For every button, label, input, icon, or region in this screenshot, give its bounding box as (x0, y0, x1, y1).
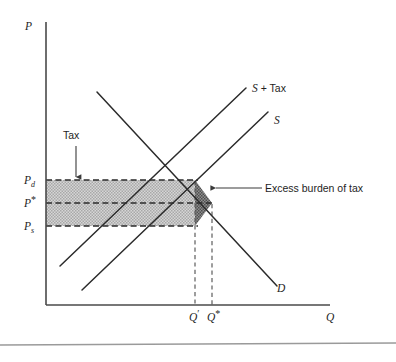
figure-root: P Q Pd P* Ps Q′ Q* S+ Tax (0, 0, 396, 362)
price-demand-label: Pd (23, 174, 36, 189)
supply-plus-tax-label-main: S (252, 82, 258, 94)
tax-annotation: Tax (63, 129, 80, 177)
axes (46, 22, 330, 305)
tax-annotation-label: Tax (63, 129, 80, 141)
price-supply-base: P (23, 220, 31, 232)
supply-plus-tax-label: S+ Tax (252, 82, 287, 94)
quantity-equilibrium-sub: * (215, 308, 220, 319)
y-axis-label: P (24, 20, 32, 32)
quantity-tick-labels: Q′ Q* (189, 308, 220, 323)
quantity-taxed-label: Q′ (189, 308, 200, 323)
price-demand-base: P (23, 174, 31, 186)
price-equilibrium-base: P (23, 197, 31, 209)
excess-burden-annotation-label: Excess burden of tax (265, 182, 364, 194)
price-supply-sub: s (31, 226, 34, 235)
bottom-divider-rule (0, 343, 396, 345)
price-equilibrium-label: P* (23, 194, 36, 209)
quantity-taxed-sub: ′ (197, 308, 199, 319)
price-demand-sub: d (31, 180, 36, 189)
price-tick-labels: Pd P* Ps (23, 174, 36, 235)
x-axis-label: Q (326, 311, 335, 323)
excess-burden-annotation: Excess burden of tax (216, 182, 364, 194)
quantity-equilibrium-label: Q* (207, 308, 220, 323)
price-equilibrium-sub: * (31, 194, 36, 205)
excess-burden-of-tax-diagram: P Q Pd P* Ps Q′ Q* S+ Tax (0, 0, 396, 362)
supply-plus-tax-curve (60, 88, 246, 266)
demand-label: D (276, 282, 286, 294)
supply-plus-tax-label-suffix: + Tax (261, 82, 287, 94)
supply-label: S (274, 114, 280, 126)
price-supply-label: Ps (23, 220, 34, 235)
